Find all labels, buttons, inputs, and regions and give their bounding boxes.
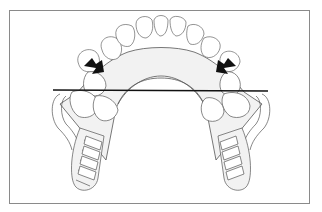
right-retention-saddle bbox=[218, 128, 250, 190]
left-retention-saddle bbox=[72, 128, 104, 190]
fulcrum-line bbox=[53, 90, 268, 91]
denture-illustration bbox=[0, 0, 322, 212]
